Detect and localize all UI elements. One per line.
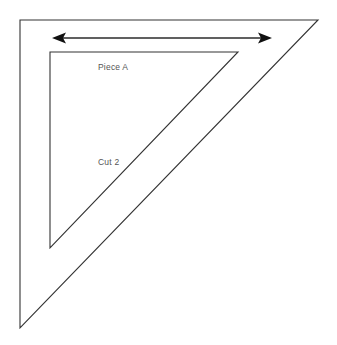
outer-right-triangle — [20, 20, 318, 328]
width-dimension-arrow — [52, 33, 272, 44]
diagram-canvas: Piece A Cut 2 — [0, 0, 337, 345]
cutting-diagram-svg: Piece A Cut 2 — [0, 0, 337, 345]
cut-label: Cut 2 — [98, 157, 119, 167]
piece-label: Piece A — [98, 62, 128, 72]
inner-right-triangle — [50, 52, 238, 248]
